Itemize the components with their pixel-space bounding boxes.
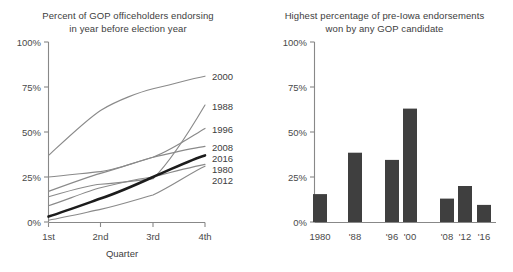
series-label-1988: 1988 [212,101,233,112]
y-tick-label-100: 100% [17,37,42,48]
series-line-2000 [49,76,206,155]
y-tick-label-75: 75% [288,82,308,93]
bar-chart-panel: Highest percentage of pre-Iowa endorseme… [256,0,513,272]
line-chart-svg: 100% 75% 50% 25% 0% 1st 2nd 3rd 4th Quar… [0,0,256,272]
x-axis-title: Quarter [106,248,138,259]
bar-08 [440,199,454,222]
x-tick-label-88: '88 [349,231,361,242]
y-tick-label-100: 100% [283,37,308,48]
series-label-2008: 2008 [212,142,233,153]
bar-88 [348,153,362,222]
y-tick-label-0: 0% [293,217,307,228]
x-tick-label-2nd: 2nd [93,231,109,242]
y-tick-label-25: 25% [22,172,42,183]
series-label-2016: 2016 [212,153,233,164]
series-label-1980: 1980 [212,164,233,175]
x-tick-label-00: '00 [404,231,416,242]
x-tick-label-3rd: 3rd [146,231,160,242]
series-line-1980 [49,164,206,205]
x-tick-label-1st: 1st [42,231,55,242]
x-tick-label-1980: 1980 [309,231,330,242]
bar-96 [385,160,399,222]
bar-00 [403,109,417,222]
y-tick-label-50: 50% [22,127,42,138]
bar-12 [458,186,472,222]
x-tick-label-08: '08 [441,231,453,242]
line-chart-panel: Percent of GOP officeholders endorsing i… [0,0,256,272]
x-tick-label-16: '16 [478,231,490,242]
series-label-2000: 2000 [212,71,233,82]
y-tick-label-50: 50% [288,127,308,138]
series-label-2012: 2012 [212,175,233,186]
x-tick-label-4th: 4th [198,231,211,242]
y-tick-label-0: 0% [27,217,41,228]
series-label-1996: 1996 [212,124,233,135]
y-tick-label-25: 25% [288,172,308,183]
chart-page: Percent of GOP officeholders endorsing i… [0,0,513,272]
series-line-2016 [49,155,206,216]
x-tick-label-96: '96 [386,231,398,242]
bar-1980 [313,194,327,222]
series-line-2008 [49,146,206,177]
x-tick-label-12: '12 [459,231,471,242]
bar-16 [477,205,491,222]
y-tick-label-75: 75% [22,82,42,93]
bar-chart-svg: 100% 75% 50% 25% 0% 1980 '88 '96 '00 '08… [256,0,513,272]
